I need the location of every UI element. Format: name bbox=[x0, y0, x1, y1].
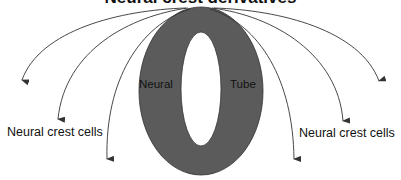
diagram-canvas bbox=[0, 0, 401, 180]
neural-crest-diagram: Neural crest derivatives Neural Tube Neu… bbox=[0, 0, 401, 180]
tube-label-right: Tube bbox=[230, 78, 256, 90]
tube-label-left: Neural bbox=[139, 78, 173, 90]
neural-crest-cells-label-right: Neural crest cells bbox=[299, 126, 395, 140]
neural-crest-cells-label-left: Neural crest cells bbox=[7, 125, 103, 139]
neural-tube-shape bbox=[139, 7, 263, 175]
